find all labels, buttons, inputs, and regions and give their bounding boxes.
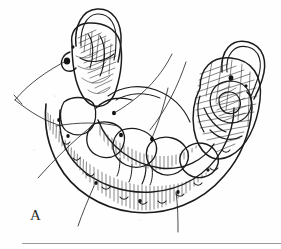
- caption-divider-rule: [22, 243, 281, 244]
- leader-line-upper-right-1: [116, 54, 172, 112]
- right-abutment-tooth-group: [193, 41, 265, 159]
- pointer-dot-left-cusp: [72, 45, 75, 48]
- left-abutment-tooth-group: [61, 9, 121, 106]
- dental-partial-denture-illustration: [0, 0, 281, 249]
- pointer-dot-right-cusp: [244, 84, 247, 88]
- leader-line-left-loop: [15, 60, 68, 100]
- left-rest-seat-marker: [64, 57, 70, 64]
- panel-label-a: A: [30, 206, 41, 224]
- leader-line-lower-middle: [176, 192, 178, 232]
- figure-panel: A: [0, 0, 281, 249]
- scan-speckle: [34, 62, 248, 221]
- right-tooth-lobe-texture: [216, 86, 246, 121]
- pointer-dot-right-rest: [229, 75, 234, 80]
- leader-line-bottom-left: [78, 186, 94, 226]
- leader-line-mid-left: [56, 123, 118, 126]
